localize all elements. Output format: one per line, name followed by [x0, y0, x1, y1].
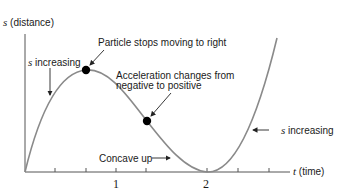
x-axis-label: t (time): [293, 166, 324, 177]
diagram-canvas: [0, 0, 342, 196]
distance-time-diagram: s (distance) s increasing Particle stops…: [0, 0, 342, 196]
particle-stops-arrow: [90, 50, 104, 65]
tick-label-1: 1: [113, 177, 119, 192]
tick-label-2: 2: [203, 177, 209, 192]
acceleration-label-line2: negative to positive: [116, 80, 202, 91]
inflection-point-dot: [143, 117, 151, 125]
s-increasing-left-label: s increasing: [28, 57, 81, 68]
y-axis-label: s (distance): [3, 17, 54, 28]
max-point-dot: [82, 66, 90, 74]
particle-stops-label: Particle stops moving to right: [98, 37, 226, 48]
s-increasing-right-label: s increasing: [281, 125, 334, 136]
acceleration-arrow: [151, 93, 171, 116]
x-axis-ticks: [55, 168, 269, 172]
concave-up-label: Concave up: [99, 153, 152, 164]
